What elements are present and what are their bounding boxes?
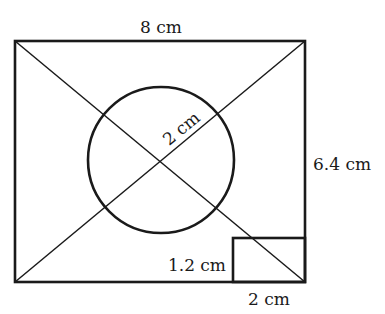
label-height: 6.4 cm (313, 154, 371, 174)
label-small-height: 1.2 cm (168, 255, 226, 275)
geometry-diagram: 8 cm 6.4 cm 2 cm 1.2 cm 2 cm (0, 0, 385, 314)
label-width: 8 cm (140, 17, 182, 37)
label-small-width: 2 cm (248, 289, 290, 309)
small-rectangle (233, 238, 305, 282)
